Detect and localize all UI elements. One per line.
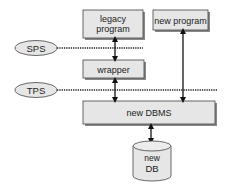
new-program-label: new program [154, 16, 207, 26]
legacy-wrapping-diagram: legacy program new program wrapper new D… [0, 0, 229, 195]
legacy-program-label-1: legacy [100, 14, 127, 24]
sps-level: SPS [15, 41, 57, 56]
sps-label: SPS [26, 43, 45, 54]
legacy-program-box: legacy program [83, 10, 145, 40]
wrapper-box: wrapper [83, 60, 146, 80]
new-dbms-label: new DBMS [126, 108, 171, 118]
database-cylinder: new DB [133, 141, 171, 181]
new-dbms-box: new DBMS [83, 101, 217, 126]
tps-level: TPS [15, 83, 57, 98]
new-program-box: new program [153, 10, 210, 32]
db-label-2: DB [145, 163, 158, 174]
tps-label: TPS [27, 85, 45, 96]
legacy-program-label-2: program [96, 24, 130, 34]
db-label-1: new [144, 153, 160, 163]
wrapper-label: wrapper [96, 65, 130, 75]
